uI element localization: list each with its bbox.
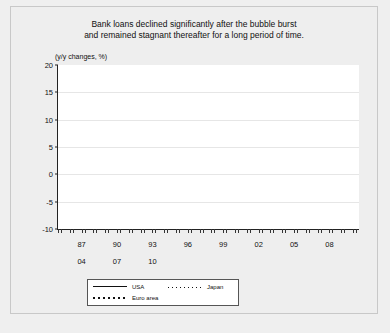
x-axis-tick-mark — [141, 229, 142, 233]
x-axis-tick-mark — [341, 229, 342, 233]
x-axis-tick-mark — [82, 229, 83, 233]
x-axis-tick-mark — [144, 229, 145, 233]
legend-label-japan: Japan — [207, 284, 223, 290]
x-axis-tick-mark — [259, 229, 260, 233]
x-axis-tick-mark — [270, 229, 271, 233]
y-axis-tick-label: 20 — [45, 61, 53, 70]
x-axis-tick-mark — [120, 229, 121, 233]
gridline — [58, 202, 359, 203]
x-axis-tick-mark — [297, 229, 298, 233]
x-axis-tick-label-secondary: 04 — [77, 257, 85, 266]
x-axis-tick-mark — [329, 229, 330, 233]
x-axis-tick-label: 90 — [113, 240, 121, 249]
chart-title-line-2: and remained stagnant thereafter for a l… — [11, 30, 377, 41]
x-axis-tick-mark — [247, 229, 248, 233]
x-axis-tick-mark — [200, 229, 201, 233]
x-axis-tick-mark — [294, 229, 295, 233]
x-axis-tick-mark — [203, 229, 204, 233]
chart-title: Bank loans declined significantly after … — [11, 19, 377, 41]
x-axis-tick-mark — [282, 229, 283, 233]
x-axis-tick-mark — [61, 229, 62, 233]
legend-swatch-usa-icon — [93, 284, 127, 290]
y-axis-tick-mark — [55, 147, 58, 148]
figure-panel: Bank loans declined significantly after … — [10, 6, 378, 314]
x-axis-tick-mark — [250, 229, 251, 233]
x-axis-tick-mark — [318, 229, 319, 233]
x-axis-tick-mark — [309, 229, 310, 233]
x-axis-tick-mark — [223, 229, 224, 233]
y-axis-tick-mark — [55, 201, 58, 202]
legend-label-euro-area: Euro area — [132, 295, 158, 301]
y-axis-tick-mark — [55, 174, 58, 175]
x-axis-tick-mark — [226, 229, 227, 233]
x-axis-tick-label: 02 — [254, 240, 262, 249]
legend-swatch-japan-icon — [168, 284, 202, 290]
y-axis-tick-mark — [55, 119, 58, 120]
legend-swatch-euro-area-icon — [93, 295, 127, 301]
x-axis-tick-label: 99 — [219, 240, 227, 249]
x-axis-line — [57, 229, 359, 230]
gridline — [58, 174, 359, 175]
x-axis-tick-mark — [356, 229, 357, 233]
plot-area: 20151050-5-10 8790939699020508040710 — [58, 65, 359, 229]
x-axis-tick-label-secondary: 07 — [113, 257, 121, 266]
x-axis-tick-mark — [273, 229, 274, 233]
y-axis-tick-mark — [55, 65, 58, 66]
x-axis-tick-mark — [179, 229, 180, 233]
y-axis-tick-label: 0 — [49, 170, 53, 179]
x-axis-tick-mark — [176, 229, 177, 233]
y-axis-tick-mark — [55, 92, 58, 93]
x-axis-tick-mark — [321, 229, 322, 233]
chart-title-line-1: Bank loans declined significantly after … — [11, 19, 377, 30]
x-axis-tick-mark — [214, 229, 215, 233]
gridline — [58, 147, 359, 148]
x-axis-tick-mark — [73, 229, 74, 233]
x-axis-tick-mark — [353, 229, 354, 233]
x-axis-tick-mark — [262, 229, 263, 233]
x-axis-tick-mark — [105, 229, 106, 233]
x-axis-tick-mark — [108, 229, 109, 233]
y-axis-tick-label: 5 — [49, 143, 53, 152]
legend-item-japan: Japan — [168, 284, 223, 290]
x-axis-tick-mark — [155, 229, 156, 233]
x-axis-tick-mark — [70, 229, 71, 233]
x-axis-tick-mark — [211, 229, 212, 233]
x-axis-tick-mark — [58, 229, 59, 233]
x-axis-tick-mark — [96, 229, 97, 233]
y-axis-tick-label: 15 — [45, 88, 53, 97]
x-axis-tick-label-secondary: 10 — [148, 257, 156, 266]
x-axis-tick-mark — [285, 229, 286, 233]
legend-label-usa: USA — [132, 284, 144, 290]
x-axis-tick-label: 05 — [290, 240, 298, 249]
x-axis-tick-mark — [238, 229, 239, 233]
x-axis-tick-mark — [188, 229, 189, 233]
x-axis-tick-label: 08 — [325, 240, 333, 249]
y-axis-tick-label: -10 — [42, 225, 53, 234]
x-axis-tick-mark — [164, 229, 165, 233]
legend-item-euro-area: Euro area — [93, 295, 158, 301]
chart-legend: USA Japan Euro area — [87, 279, 239, 306]
x-axis-tick-mark — [132, 229, 133, 233]
x-axis-tick-mark — [129, 229, 130, 233]
y-axis-unit-label: (y/y changes, %) — [55, 53, 107, 60]
x-axis-tick-mark — [85, 229, 86, 233]
gridline — [58, 92, 359, 93]
x-axis-tick-mark — [344, 229, 345, 233]
x-axis-tick-mark — [332, 229, 333, 233]
x-axis-tick-mark — [167, 229, 168, 233]
x-axis-tick-mark — [235, 229, 236, 233]
gridline — [58, 120, 359, 121]
x-axis-tick-mark — [191, 229, 192, 233]
x-axis-tick-label: 93 — [148, 240, 156, 249]
legend-item-usa: USA — [93, 284, 144, 290]
x-axis-tick-mark — [306, 229, 307, 233]
x-axis-tick-label: 96 — [184, 240, 192, 249]
x-axis-tick-label: 87 — [77, 240, 85, 249]
x-axis-tick-mark — [93, 229, 94, 233]
y-axis-tick-label: 10 — [45, 115, 53, 124]
x-axis-tick-mark — [117, 229, 118, 233]
x-axis-tick-mark — [152, 229, 153, 233]
y-axis-tick-label: -5 — [46, 197, 53, 206]
